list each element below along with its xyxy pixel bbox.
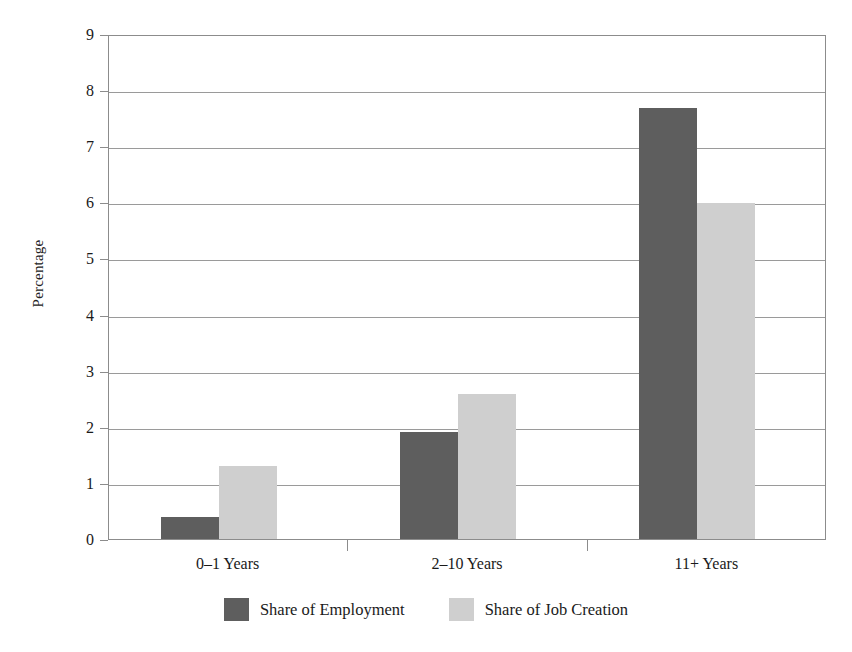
y-tick-label: 4 — [48, 307, 94, 325]
y-tick-mark — [100, 428, 108, 429]
gridline — [109, 148, 825, 149]
y-tick-label: 0 — [48, 531, 94, 549]
x-category-label-0: 0–1 Years — [196, 555, 259, 573]
gridline — [109, 92, 825, 93]
y-tick-label: 1 — [48, 475, 94, 493]
plot-area — [108, 35, 826, 540]
x-axis-separator-tick — [347, 540, 348, 551]
bar-employment-0 — [161, 517, 219, 539]
x-category-label-1: 2–10 Years — [431, 555, 502, 573]
y-tick-mark — [100, 540, 108, 541]
bar-chart-figure: Percentage 0123456789 0–1 Years2–10 Year… — [0, 0, 852, 652]
y-tick-mark — [100, 203, 108, 204]
bar-job-creation-1 — [458, 394, 516, 539]
chart-legend: Share of Employment Share of Job Creatio… — [0, 598, 852, 621]
y-tick-mark — [100, 91, 108, 92]
y-tick-label: 8 — [48, 82, 94, 100]
dark-swatch-icon — [224, 598, 249, 621]
legend-item-share-of-employment[interactable]: Share of Employment — [224, 598, 405, 621]
y-axis-title: Percentage — [30, 214, 47, 334]
y-tick-mark — [100, 259, 108, 260]
bar-job-creation-0 — [219, 466, 277, 539]
y-tick-mark — [100, 147, 108, 148]
y-tick-mark — [100, 372, 108, 373]
legend-item-share-of-job-creation[interactable]: Share of Job Creation — [449, 598, 628, 621]
y-tick-mark — [100, 484, 108, 485]
y-tick-label: 9 — [48, 26, 94, 44]
y-tick-mark — [100, 35, 108, 36]
bar-employment-2 — [639, 108, 697, 539]
y-tick-label: 2 — [48, 419, 94, 437]
y-tick-label: 7 — [48, 138, 94, 156]
x-axis-separator-tick — [587, 540, 588, 551]
y-tick-mark — [100, 316, 108, 317]
legend-label-share-of-job-creation: Share of Job Creation — [485, 600, 628, 620]
y-tick-label: 3 — [48, 363, 94, 381]
legend-label-share-of-employment: Share of Employment — [260, 600, 405, 620]
y-tick-label: 6 — [48, 194, 94, 212]
x-category-label-2: 11+ Years — [675, 555, 739, 573]
bar-employment-1 — [400, 432, 458, 539]
light-swatch-icon — [449, 598, 474, 621]
y-tick-label: 5 — [48, 250, 94, 268]
bar-job-creation-2 — [697, 203, 755, 539]
